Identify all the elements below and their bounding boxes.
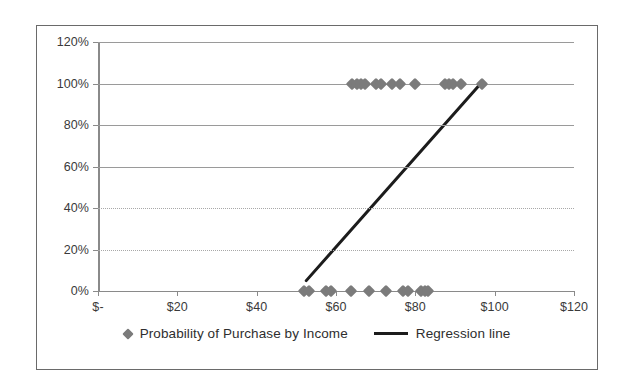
legend-label-probability: Probability of Purchase by Income [140,326,348,341]
data-point-marker [476,77,489,90]
x-tick-mark [98,291,99,296]
y-axis-tick-label: 100% [57,77,89,91]
x-axis-tick-label: $- [92,300,103,314]
x-axis-tick-label: $20 [167,300,188,314]
data-point-marker [380,285,393,298]
gridline-y [98,250,574,251]
y-tick-mark [93,208,98,209]
x-axis-tick-label: $40 [246,300,267,314]
data-point-marker [394,77,407,90]
y-tick-mark [93,250,98,251]
chart-legend: Probability of Purchase by Income Regres… [37,326,597,341]
legend-entry-regression[interactable]: Regression line [374,326,511,341]
gridline-y [98,125,574,126]
x-axis-tick-label: $80 [405,300,426,314]
gridline-y [98,84,574,85]
gridline-y [98,42,574,43]
data-point-marker [363,285,376,298]
x-tick-mark [177,291,178,296]
y-tick-mark [93,167,98,168]
line-marker-icon [374,332,408,335]
y-axis-tick-label: 80% [64,118,89,132]
x-tick-mark [574,291,575,296]
regression-line-path [306,84,481,281]
plot-area: 0%20%40%60%80%100%120%$-$20$40$60$80$100… [98,42,574,291]
y-axis-tick-label: 0% [71,284,89,298]
x-tick-mark [495,291,496,296]
data-point-marker [345,285,358,298]
gridline-y [98,208,574,209]
y-axis-tick-label: 20% [64,243,89,257]
y-axis-tick-label: 40% [64,201,89,215]
chart-frame: 0%20%40%60%80%100%120%$-$20$40$60$80$100… [36,25,598,370]
data-point-marker [455,77,468,90]
legend-label-regression: Regression line [416,326,511,341]
y-axis-tick-label: 60% [64,160,89,174]
x-axis-tick-label: $60 [325,300,346,314]
x-axis-tick-label: $100 [481,300,509,314]
y-tick-mark [93,42,98,43]
gridline-y [98,167,574,168]
y-tick-mark [93,125,98,126]
y-tick-mark [93,84,98,85]
x-tick-mark [257,291,258,296]
y-axis-tick-label: 120% [57,35,89,49]
legend-entry-probability[interactable]: Probability of Purchase by Income [124,326,348,341]
diamond-marker-icon [122,328,133,339]
x-axis-tick-label: $120 [560,300,588,314]
data-point-marker [408,77,421,90]
